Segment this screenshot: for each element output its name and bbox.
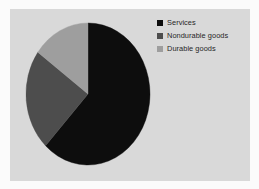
legend-item-services[interactable]: Services (157, 17, 249, 28)
square-swatch-icon (157, 33, 163, 39)
chart-legend: Services Nondurable goods Durable goods (157, 17, 249, 56)
square-swatch-icon (157, 46, 163, 52)
pie-svg (25, 22, 151, 166)
pie-chart-figure: Services Nondurable goods Durable goods (0, 0, 259, 189)
pie-slice-group (26, 23, 150, 165)
legend-item-label: Services (167, 19, 196, 27)
legend-item-nondurable-goods[interactable]: Nondurable goods (157, 30, 249, 41)
legend-item-label: Durable goods (167, 45, 216, 53)
legend-item-durable-goods[interactable]: Durable goods (157, 43, 249, 54)
legend-item-label: Nondurable goods (167, 32, 228, 40)
pie-chart (25, 22, 151, 166)
plot-area: Services Nondurable goods Durable goods (10, 9, 250, 181)
square-swatch-icon (157, 20, 163, 26)
